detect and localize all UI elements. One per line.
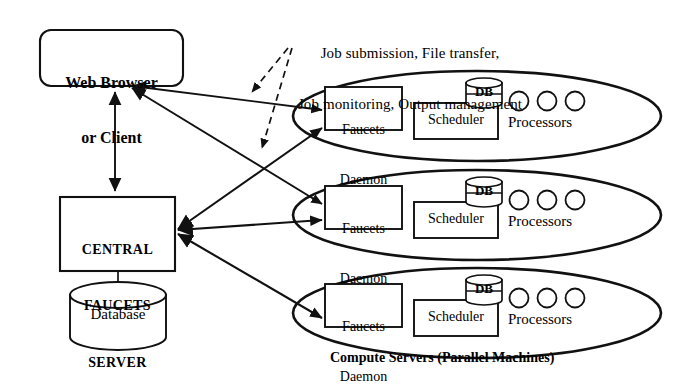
database-label: Database: [70, 306, 166, 323]
scheduler-label-2: Scheduler: [414, 211, 498, 227]
web-browser-label: Web Browser or Client: [40, 37, 183, 166]
scheduler-label-1: Scheduler: [414, 112, 498, 128]
central-server-line-3: SERVER: [60, 354, 175, 373]
annotation-text: Job submission, File transfer, Job monit…: [240, 10, 580, 131]
daemon-line-1: Faucets: [325, 122, 402, 139]
processor-circle-2-1: [510, 191, 529, 210]
processor-circle-2-3: [566, 191, 585, 210]
processor-circle-2-2: [538, 191, 557, 210]
processors-label-2: Processors: [508, 213, 618, 230]
db-label-2: DB: [466, 184, 502, 199]
processor-circle-3-1: [510, 289, 529, 308]
daemon-line-2: Daemon: [325, 271, 402, 288]
faucets-daemon-label-3: Faucets Daemon: [325, 286, 402, 389]
daemon-line-1: Faucets: [325, 221, 402, 238]
processors-label-1: Processors: [508, 114, 618, 131]
scheduler-label-3: Scheduler: [414, 309, 498, 325]
server-to-daemon-3-arrow: [178, 234, 322, 318]
processors-label-3: Processors: [508, 311, 618, 328]
daemon-line-2: Daemon: [325, 172, 402, 189]
web-browser-line-2: or Client: [40, 129, 183, 147]
processor-circle-3-2: [538, 289, 557, 308]
central-faucets-server-label: CENTRAL FAUCETS SERVER: [60, 203, 175, 389]
db-label-3: DB: [466, 282, 502, 297]
processor-circle-3-3: [566, 289, 585, 308]
daemon-line-1: Faucets: [325, 319, 402, 336]
central-server-line-1: CENTRAL: [60, 241, 175, 260]
db-label-1: DB: [466, 85, 502, 100]
annotation-line-1: Job submission, File transfer,: [240, 45, 580, 62]
annotation-line-2: Job monitoring, Output management: [240, 96, 580, 113]
web-browser-line-1: Web Browser: [40, 74, 183, 92]
daemon-line-2: Daemon: [325, 369, 402, 386]
diagram-caption: Compute Servers (Parallel Machines): [330, 350, 690, 366]
